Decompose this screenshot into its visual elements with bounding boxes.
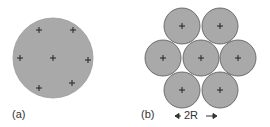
- diagram-canvas: [0, 0, 270, 127]
- panel-b-label: (b): [141, 108, 154, 120]
- dimension-label: 2R: [184, 109, 198, 121]
- panel-a-label: (a): [12, 108, 25, 120]
